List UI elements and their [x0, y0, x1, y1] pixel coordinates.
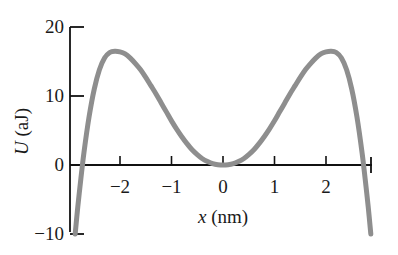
y-tick-label-20: 20	[45, 17, 64, 36]
x-axis-unit: (nm)	[211, 206, 248, 227]
y-axis-symbol: U	[11, 141, 32, 155]
x-tick-label-zero: 0	[198, 177, 248, 196]
y-axis-title: U (aJ)	[12, 108, 31, 155]
x-tick-label-neg1: −1	[147, 177, 197, 196]
y-axis-unit: (aJ)	[11, 108, 32, 136]
potential-energy-chart: 20 10 0 −10 −2 −1 0 1 2 x (nm) U (aJ)	[0, 0, 398, 255]
y-tick-label-0: 0	[55, 155, 65, 174]
x-tick-label-neg2: −2	[95, 177, 145, 196]
y-tick-label-neg10: −10	[34, 224, 64, 243]
y-tick-label-10: 10	[45, 86, 64, 105]
x-tick-label-1: 1	[250, 177, 300, 196]
x-tick-label-2: 2	[301, 177, 351, 196]
x-axis-title: x (nm)	[178, 207, 268, 226]
